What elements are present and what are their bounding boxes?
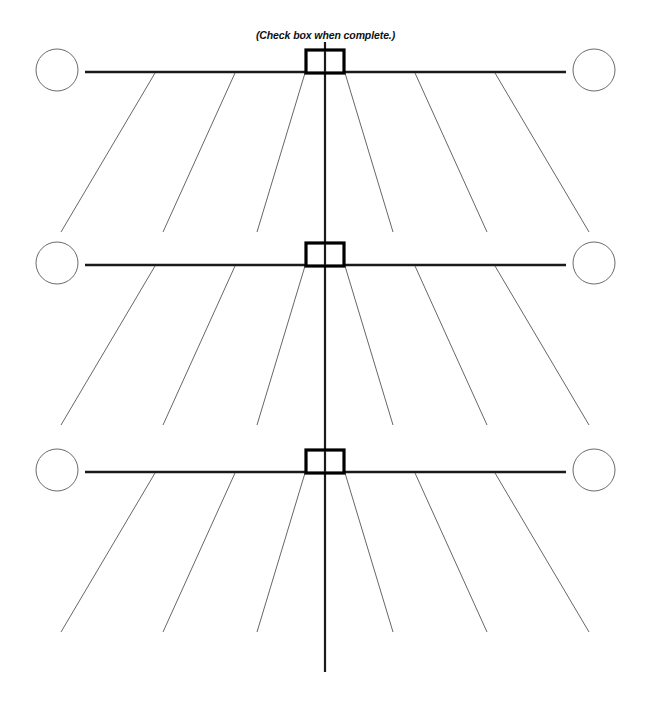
- rib-left-1-2[interactable]: [163, 73, 235, 232]
- effect-circle-right-2[interactable]: [573, 242, 615, 284]
- rib-left-3-3[interactable]: [61, 473, 155, 632]
- rib-left-2-1[interactable]: [257, 266, 305, 425]
- rib-right-1-1[interactable]: [345, 73, 393, 232]
- rib-right-2-3[interactable]: [495, 266, 589, 425]
- rib-right-2-2[interactable]: [415, 266, 487, 425]
- rib-right-2-1[interactable]: [345, 266, 393, 425]
- effect-circle-left-2[interactable]: [36, 242, 78, 284]
- effect-circle-left-3[interactable]: [36, 449, 78, 491]
- rib-left-3-2[interactable]: [163, 473, 235, 632]
- fishbone-diagram: [0, 0, 651, 706]
- rib-right-3-2[interactable]: [415, 473, 487, 632]
- rib-left-2-2[interactable]: [163, 266, 235, 425]
- rib-left-2-3[interactable]: [61, 266, 155, 425]
- rib-left-3-1[interactable]: [257, 473, 305, 632]
- effect-circle-right-3[interactable]: [573, 449, 615, 491]
- rib-left-1-3[interactable]: [61, 73, 155, 232]
- rib-right-3-3[interactable]: [495, 473, 589, 632]
- rib-right-1-3[interactable]: [495, 73, 589, 232]
- effect-circle-right-1[interactable]: [573, 49, 615, 91]
- rib-right-3-1[interactable]: [345, 473, 393, 632]
- worksheet-page: (Check box when complete.): [0, 0, 651, 706]
- effect-circle-left-1[interactable]: [36, 49, 78, 91]
- rib-right-1-2[interactable]: [415, 73, 487, 232]
- rib-left-1-1[interactable]: [257, 73, 305, 232]
